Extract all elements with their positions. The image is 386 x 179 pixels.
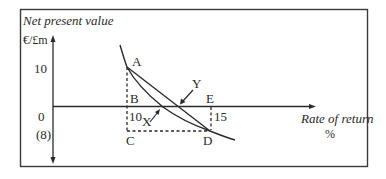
pointer-y bbox=[183, 90, 193, 101]
y-axis-up-arrow-icon bbox=[51, 35, 56, 42]
point-label-x: X bbox=[142, 115, 151, 128]
x-tick-15: 15 bbox=[214, 110, 227, 123]
point-label-e: E bbox=[206, 92, 214, 105]
npv-irr-diagram: Net present value €/£m Rate of return % … bbox=[0, 0, 386, 179]
y-axis-unit: €/£m bbox=[23, 34, 48, 46]
point-label-b: B bbox=[130, 92, 139, 105]
point-label-a: A bbox=[132, 55, 141, 68]
y-axis-title: Net present value bbox=[23, 14, 114, 27]
point-label-d: D bbox=[203, 134, 212, 147]
x-tick-10: 10 bbox=[129, 110, 142, 123]
x-axis-arrow-icon bbox=[309, 104, 316, 109]
y-tick-0: 0 bbox=[38, 110, 45, 123]
point-label-c: C bbox=[126, 134, 135, 147]
y-tick-minus-8: (8) bbox=[36, 128, 51, 141]
y-tick-10: 10 bbox=[34, 62, 47, 75]
point-label-y: Y bbox=[192, 77, 201, 90]
x-axis-title: Rate of return bbox=[301, 112, 373, 125]
x-axis-unit: % bbox=[325, 128, 335, 140]
y-axis-down-arrow-icon bbox=[51, 157, 56, 164]
